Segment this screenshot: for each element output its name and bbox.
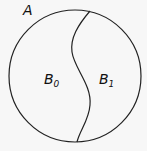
partition-curve	[72, 11, 90, 142]
partition-diagram: A B0 B1	[0, 0, 147, 151]
region-b1-label: B1	[99, 71, 114, 89]
set-a-circle	[9, 10, 141, 142]
region-b0-label: B0	[44, 71, 60, 89]
set-a-label: A	[22, 2, 33, 18]
